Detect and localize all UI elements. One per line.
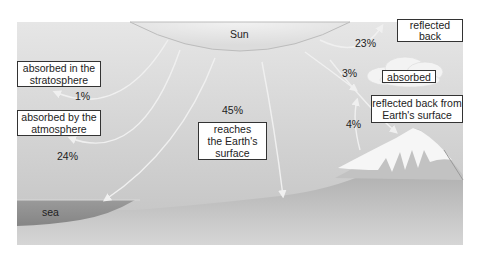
label-line: absorbed in the bbox=[23, 62, 95, 74]
label-line: reaches bbox=[214, 123, 251, 135]
percent-stratosphere: 1% bbox=[75, 90, 90, 102]
percent-reflected-surface: 4% bbox=[346, 118, 361, 130]
sea-label: sea bbox=[42, 206, 59, 218]
label-line: absorbed bbox=[387, 71, 431, 83]
label-line: atmosphere bbox=[31, 123, 86, 135]
percent-reflected-clouds: 23% bbox=[355, 37, 376, 49]
label-line: stratosphere bbox=[30, 74, 88, 86]
label-line: Earth's surface bbox=[382, 109, 452, 121]
label-line: reflected bbox=[410, 20, 450, 31]
percent-surface: 45% bbox=[222, 104, 243, 116]
label-atmosphere: absorbed by the atmosphere bbox=[17, 110, 101, 136]
label-line: the Earth's bbox=[208, 135, 258, 147]
label-stratosphere: absorbed in the stratosphere bbox=[17, 61, 101, 87]
label-line: absorbed by the bbox=[21, 111, 96, 123]
label-reflected-surface: reflected back from Earth's surface bbox=[371, 95, 463, 123]
percent-absorbed-clouds: 3% bbox=[342, 67, 357, 79]
label-absorbed-clouds: absorbed bbox=[382, 70, 436, 83]
sun-label: Sun bbox=[230, 28, 249, 40]
diagram: Sun absorbed in the stratosphere 1% abso… bbox=[0, 0, 486, 267]
label-reflected-back: reflected back bbox=[397, 19, 463, 42]
label-line: reflected back from bbox=[372, 97, 461, 109]
percent-atmosphere: 24% bbox=[57, 150, 78, 162]
label-line: back bbox=[419, 31, 441, 42]
label-surface: reaches the Earth's surface bbox=[198, 122, 267, 160]
label-line: surface bbox=[215, 147, 249, 159]
